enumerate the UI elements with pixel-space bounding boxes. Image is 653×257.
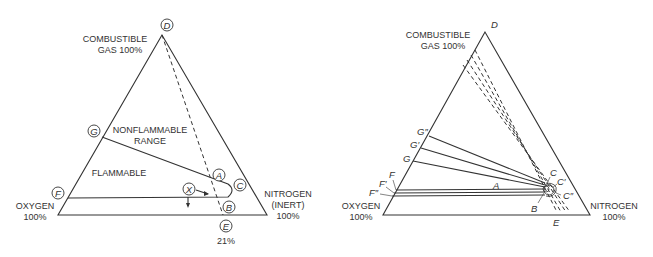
right-vertex-left-label-2: 100% <box>349 212 372 222</box>
right-point-g2: G″ <box>417 126 428 137</box>
point-c: C <box>234 179 246 191</box>
leader-f1 <box>386 187 394 193</box>
point-d: D <box>161 19 173 31</box>
point-f: F <box>52 187 64 199</box>
point-a: A <box>213 169 225 181</box>
right-vertex-right-label: NITROGEN <box>590 201 638 211</box>
svg-text:C: C <box>237 180 244 191</box>
svg-text:X: X <box>185 184 193 195</box>
e-value-label: 21% <box>217 236 235 246</box>
left-ternary-diagram: D G F A C X B E COMBUSTI <box>16 19 312 246</box>
svg-text:D: D <box>164 20 171 31</box>
right-vertex-right-label-2: 100% <box>602 212 625 222</box>
leader-c2 <box>556 193 561 195</box>
right-point-c1: C′ <box>557 176 567 187</box>
arrowhead <box>204 191 209 196</box>
right-point-b: B <box>531 203 538 214</box>
line-f <box>396 189 545 190</box>
left-vertex-left-label: OXYGEN <box>16 201 55 211</box>
right-point-c2: C″ <box>563 190 574 201</box>
svg-text:E: E <box>223 221 230 232</box>
point-b: B <box>223 201 235 213</box>
range-label: RANGE <box>134 136 166 146</box>
right-point-f: F <box>389 169 396 180</box>
right-dashed-line-2 <box>471 55 561 212</box>
point-x: X <box>183 183 195 195</box>
leader-f2 <box>380 194 392 196</box>
right-point-c: C <box>550 167 557 178</box>
point-e: E <box>220 220 232 232</box>
left-vertex-right-label-3: 100% <box>276 211 299 221</box>
right-point-f1: F′ <box>379 178 388 189</box>
arrowhead <box>186 203 190 208</box>
line-f2 <box>392 195 545 196</box>
right-ternary-diagram: D G″ G′ G F F′ F″ A B C C′ C″ E COMBUSTI… <box>342 19 638 228</box>
right-triangle <box>383 32 590 215</box>
right-point-a: A <box>492 180 499 191</box>
point-g: G <box>88 125 100 137</box>
svg-text:A: A <box>215 170 222 181</box>
leader-f <box>393 180 396 190</box>
right-point-g1: G′ <box>410 139 420 150</box>
right-point-e: E <box>553 217 560 228</box>
svg-text:G: G <box>90 126 97 137</box>
left-vertex-top-label-2: GAS 100% <box>98 45 143 55</box>
nonflammable-label: NONFLAMMABLE <box>113 125 188 135</box>
left-vertex-top-label: COMBUSTIBLE <box>83 34 148 44</box>
right-point-d: D <box>491 19 498 30</box>
right-point-f2: F″ <box>369 187 379 198</box>
right-vertex-top-label: COMBUSTIBLE <box>406 30 471 40</box>
flammable-label: FLAMMABLE <box>92 168 147 178</box>
right-point-g: G <box>403 153 410 164</box>
left-vertex-right-label-2: (INERT) <box>272 200 305 210</box>
left-vertex-right-label: NITROGEN <box>264 189 312 199</box>
svg-text:B: B <box>226 202 233 213</box>
left-vertex-left-label-2: 100% <box>23 212 46 222</box>
line-f1 <box>394 192 545 193</box>
right-vertex-left-label: OXYGEN <box>342 201 381 211</box>
right-vertex-top-label-2: GAS 100% <box>421 41 466 51</box>
